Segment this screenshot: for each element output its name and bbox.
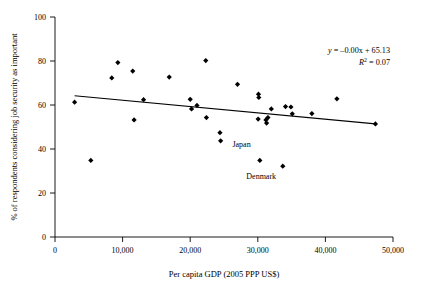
scatter-chart-figure: 0 20 40 60 80 100 0 10,000 20,000 30,000… (0, 0, 425, 303)
y-tick-label-40: 40 (38, 145, 46, 154)
x-tick-label-0: 0 (53, 246, 57, 255)
chart-canvas: 0 20 40 60 80 100 0 10,000 20,000 30,000… (0, 0, 425, 303)
y-tick-label-20: 20 (38, 189, 46, 198)
x-tick-label-20000: 20,000 (179, 246, 201, 255)
y-tick-label-80: 80 (38, 57, 46, 66)
equation-line-1: y = –0.00x + 65.13 (327, 46, 390, 55)
y-tick-label-60: 60 (38, 101, 46, 110)
y-tick-label-100: 100 (34, 13, 46, 22)
x-tick-label-50000: 50,000 (382, 246, 404, 255)
y-axis-title: % of respondents considering job securit… (9, 33, 19, 221)
equation-line-1-rest: = –0.00x + 65.13 (332, 46, 390, 55)
equation-line-2-rest: = 0.07 (367, 58, 390, 67)
annotation-label-denmark: Denmark (246, 172, 276, 181)
equation-line-2: R2 = 0.07 (358, 57, 390, 67)
y-tick-label-0: 0 (42, 233, 46, 242)
x-tick-label-40000: 40,000 (314, 246, 336, 255)
annotation-label-japan: Japan (232, 140, 250, 149)
x-axis-title: Per capita GDP (2005 PPP US$) (169, 269, 280, 279)
x-tick-label-30000: 30,000 (247, 246, 269, 255)
x-tick-label-10000: 10,000 (112, 246, 134, 255)
